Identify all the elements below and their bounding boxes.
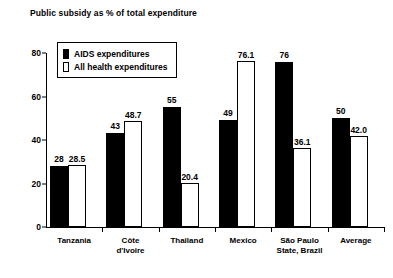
- bar-group: 4976.1: [215, 53, 271, 227]
- bar[interactable]: 28: [50, 166, 68, 227]
- bar-group: 5042.0: [328, 53, 384, 227]
- bar[interactable]: 20.4: [181, 183, 199, 227]
- bar-value-label: 28: [54, 154, 63, 164]
- bar[interactable]: 36.1: [293, 148, 311, 227]
- y-axis-tick-label: 20: [32, 179, 41, 189]
- x-axis-category-label: Côte d'Ivoire: [116, 236, 144, 256]
- bar-group: 5520.4: [159, 53, 215, 227]
- bar[interactable]: 42.0: [350, 136, 368, 227]
- bar-group: 7636.1: [271, 53, 327, 227]
- y-axis-tick-label: 0: [36, 222, 41, 232]
- x-axis-tick-mark: [271, 227, 272, 232]
- bar-value-label: 48.7: [125, 110, 142, 120]
- bar[interactable]: 76.1: [237, 61, 255, 227]
- bar[interactable]: 48.7: [124, 121, 142, 227]
- x-axis-category-label: Thailand: [170, 236, 203, 246]
- bar[interactable]: 28.5: [68, 165, 86, 227]
- x-axis-category-label: Mexico: [230, 236, 257, 246]
- bar-value-label: 76: [280, 50, 289, 60]
- bar-value-label: 76.1: [238, 50, 255, 60]
- x-axis-tick-mark: [102, 227, 103, 232]
- bar[interactable]: 49: [219, 120, 237, 227]
- bar-value-label: 28.5: [69, 154, 86, 164]
- x-axis-tick-mark: [384, 227, 385, 232]
- x-axis-category-label: São Paulo State, Brazil: [277, 236, 323, 256]
- bar-value-label: 20.4: [181, 172, 198, 182]
- x-axis-tick-mark: [328, 227, 329, 232]
- y-axis-tick-label: 60: [32, 92, 41, 102]
- bar[interactable]: 55: [163, 107, 181, 227]
- plot-area: 0204060802828.54348.75520.44976.17636.15…: [46, 53, 384, 227]
- bar-group: 4348.7: [102, 53, 158, 227]
- bar-group: 2828.5: [46, 53, 102, 227]
- x-axis-category-label: Average: [340, 236, 371, 246]
- bar-value-label: 49: [223, 108, 232, 118]
- bar-value-label: 36.1: [294, 137, 311, 147]
- bar-value-label: 43: [111, 121, 120, 131]
- bar-value-label: 42.0: [350, 125, 367, 135]
- y-axis-tick-label: 40: [32, 135, 41, 145]
- chart-container: Public subsidy as % of total expenditure…: [0, 0, 393, 278]
- x-axis-tick-mark: [159, 227, 160, 232]
- y-axis-tick-label: 80: [32, 48, 41, 58]
- bar-value-label: 55: [167, 95, 176, 105]
- x-axis-category-label: Tanzania: [57, 236, 91, 246]
- bar-value-label: 50: [336, 106, 345, 116]
- x-axis-tick-mark: [215, 227, 216, 232]
- bar[interactable]: 76: [275, 62, 293, 227]
- bar[interactable]: 50: [332, 118, 350, 227]
- chart-title: Public subsidy as % of total expenditure: [30, 8, 197, 18]
- bar[interactable]: 43: [106, 133, 124, 227]
